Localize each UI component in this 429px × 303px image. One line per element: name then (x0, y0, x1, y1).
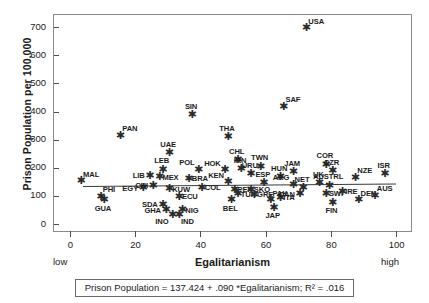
x-tick-label: 40 (187, 239, 215, 250)
data-point-label: AUSTRL (313, 172, 343, 181)
data-point-label: TWN (251, 153, 268, 162)
asterisk-marker-icon: ✱ (338, 187, 345, 196)
y-tick-label: 700 (30, 21, 46, 32)
y-tick-label: 0 (41, 218, 46, 229)
x-tick-mark (266, 231, 267, 237)
asterisk-marker-icon: ✱ (250, 190, 257, 199)
asterisk-marker-icon: ✱ (295, 189, 302, 198)
data-point-label: CZR (324, 158, 339, 167)
x-axis-low-label: low (53, 256, 67, 267)
data-point-label: NIG (185, 206, 198, 215)
x-tick-mark (396, 231, 397, 237)
data-point-label: ISR (377, 161, 389, 170)
data-point-label: KEN (208, 171, 224, 180)
x-tick-mark (331, 231, 332, 237)
data-point-label: POL (179, 158, 194, 167)
data-point-label: MAL (83, 170, 99, 179)
regression-equation-caption: Prison Population = 137.424 + .090 *Egal… (75, 279, 355, 297)
data-point-label: COL (205, 183, 221, 192)
x-axis-high-label: high (381, 256, 399, 267)
y-tick-mark (54, 83, 59, 84)
data-point-label: FIN (325, 206, 337, 215)
y-tick-mark (54, 224, 59, 225)
data-point-label: SIN (185, 102, 197, 111)
data-point-label: JAM (284, 159, 300, 168)
asterisk-marker-icon: ✱ (194, 165, 201, 174)
asterisk-marker-icon: ✱ (188, 110, 195, 119)
asterisk-marker-icon: ✱ (148, 181, 155, 190)
y-tick-label: 300 (30, 133, 46, 144)
x-tick-mark (70, 231, 71, 237)
y-tick-mark (54, 196, 59, 197)
y-tick-mark (54, 112, 59, 113)
x-tick-label: 0 (56, 239, 84, 250)
y-tick-label: 500 (30, 77, 46, 88)
data-point-label: GHA (144, 206, 161, 215)
x-tick-label: 60 (252, 239, 280, 250)
asterisk-marker-icon: ✱ (165, 184, 172, 193)
x-tick-label: 20 (122, 239, 150, 250)
data-point-label: JAP (265, 211, 279, 220)
y-tick-mark (54, 140, 59, 141)
y-tick-label: 600 (30, 49, 46, 60)
data-point-label: NZE (357, 166, 372, 175)
asterisk-marker-icon: ✱ (175, 192, 182, 201)
data-point-label: CHI (135, 181, 148, 190)
y-tick-label: 200 (30, 161, 46, 172)
data-point-label: THA (219, 124, 234, 133)
data-point-label: LIB (133, 171, 145, 180)
asterisk-marker-icon: ✱ (380, 169, 387, 178)
y-tick-mark (54, 168, 59, 169)
x-tick-mark (200, 231, 201, 237)
data-point-label: UAE (160, 140, 176, 149)
data-point-label: CAN (279, 190, 295, 199)
data-point-label: SAF (285, 95, 300, 104)
data-point-label: GUA (95, 204, 112, 213)
data-point-label: HOK (204, 159, 221, 168)
asterisk-marker-icon: ✱ (246, 169, 253, 178)
data-point-label: ESP (255, 170, 270, 179)
data-point-label: AUS (377, 184, 393, 193)
caption-wrapper: Prison Population = 137.424 + .090 *Egal… (0, 277, 429, 297)
data-point-label: ARG (273, 173, 290, 182)
data-point-label: CHL (229, 147, 244, 156)
data-point-label: NET (295, 175, 310, 184)
data-point-label: INO (155, 217, 168, 226)
plot-area: 0100200300400500600700 020406080100 ✱MAL… (53, 14, 412, 232)
asterisk-marker-icon: ✱ (223, 132, 230, 141)
asterisk-marker-icon: ✱ (197, 183, 204, 192)
asterisk-marker-icon: ✱ (184, 174, 191, 183)
x-tick-label: 100 (383, 239, 411, 250)
data-point-label: USA (308, 17, 324, 26)
y-tick-label: 400 (30, 105, 46, 116)
data-point-label: BEL (223, 204, 238, 213)
data-point-label: ECU (182, 192, 198, 201)
scatter-plot-figure: Prison Population per 100,000 0100200300… (0, 0, 429, 303)
asterisk-marker-icon: ✱ (259, 178, 266, 187)
y-tick-label: 100 (30, 189, 46, 200)
x-tick-mark (135, 231, 136, 237)
x-tick-label: 80 (317, 239, 345, 250)
data-point-label: PAN (122, 124, 137, 133)
asterisk-marker-icon: ✱ (165, 148, 172, 157)
data-point-label: IND (181, 217, 194, 226)
asterisk-marker-icon: ✱ (158, 165, 165, 174)
x-axis-title: Egalitarianism (53, 256, 412, 268)
y-tick-mark (54, 55, 59, 56)
asterisk-marker-icon: ✱ (178, 205, 185, 214)
y-tick-mark (54, 27, 59, 28)
